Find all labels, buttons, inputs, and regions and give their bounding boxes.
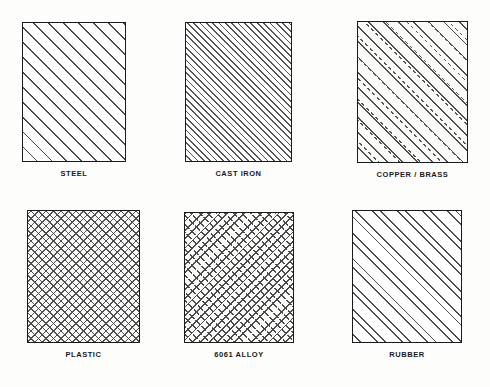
hatch-fill-rubber: [352, 210, 462, 343]
hatch-fill-alloy: [184, 212, 294, 343]
hatch-fill-plastic: [27, 210, 140, 343]
material-label: STEEL: [61, 169, 88, 178]
hatch-fill-cast-iron: [185, 22, 292, 162]
material-swatch-copper-brass: COPPER / BRASS: [357, 21, 468, 179]
material-swatch-steel: STEEL: [22, 22, 126, 178]
material-label: RUBBER: [389, 350, 424, 359]
hatch-fill-copper-brass: [357, 21, 468, 163]
material-swatch-rubber: RUBBER: [352, 210, 462, 359]
hatch-fill-steel: [22, 22, 126, 162]
material-label: CAST IRON: [215, 169, 261, 178]
material-label: COPPER / BRASS: [377, 170, 449, 179]
material-swatch-6061-alloy: 6061 ALLOY: [184, 212, 294, 359]
material-hatch-pattern-sheet: STEELCAST IRONCOPPER / BRASSPLASTIC6061 …: [0, 0, 490, 387]
material-label: PLASTIC: [66, 350, 102, 359]
material-swatch-plastic: PLASTIC: [27, 210, 140, 359]
material-swatch-cast-iron: CAST IRON: [185, 22, 292, 178]
material-label: 6061 ALLOY: [214, 350, 263, 359]
